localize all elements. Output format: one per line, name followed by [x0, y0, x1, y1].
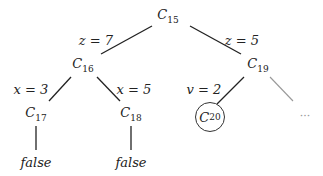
- edge-c16-c17: [49, 77, 71, 101]
- leaf-false-c18: false: [115, 155, 146, 170]
- node-c15: C15: [157, 7, 178, 25]
- node-c17: C17: [25, 105, 46, 123]
- edge-label-c16-c17: x = 3: [14, 82, 49, 97]
- search-tree-diagram: C15 C16 C19 C17 C18 C20 z = 7 z = 5 x = …: [0, 0, 323, 176]
- edge-label-c16-c18: x = 5: [117, 82, 152, 97]
- ellipsis: ···: [300, 110, 311, 123]
- node-c20-highlighted: C20: [195, 102, 225, 132]
- edge-label-c15-c16: z = 7: [79, 33, 113, 48]
- edge-c19-ellipsis: [270, 77, 293, 101]
- node-c18: C18: [120, 105, 141, 123]
- node-c19: C19: [247, 56, 268, 74]
- node-c16: C16: [72, 56, 93, 74]
- leaf-false-c17: false: [20, 155, 51, 170]
- tree-edges: [0, 0, 323, 176]
- edge-label-c19-c20: v = 2: [187, 82, 222, 97]
- edge-label-c15-c19: z = 5: [225, 33, 259, 48]
